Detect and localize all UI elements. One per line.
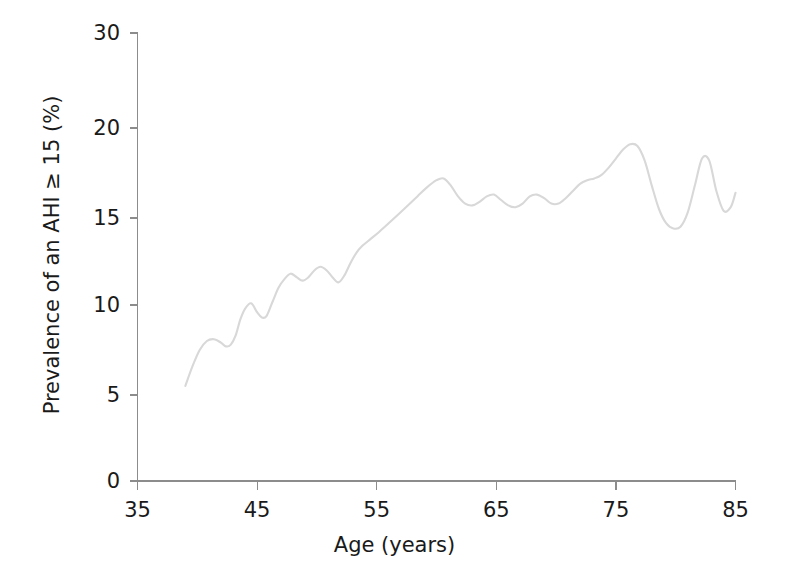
x-tick-label-85: 85 xyxy=(722,498,749,522)
chart-figure: 30 20 15 10 5 0 35 45 55 65 75 85 Age (y… xyxy=(0,0,789,580)
y-axis-ticks xyxy=(130,33,138,481)
x-tick-label-55: 55 xyxy=(363,498,390,522)
y-tick-label-10: 10 xyxy=(68,293,120,317)
x-axis-label: Age (years) xyxy=(0,533,789,557)
prevalence-curve xyxy=(185,144,735,386)
x-axis-ticks xyxy=(138,481,736,490)
x-tick-label-45: 45 xyxy=(244,498,271,522)
y-axis-label: Prevalence of an AHI ≥ 15 (%) xyxy=(40,0,64,515)
y-tick-label-15: 15 xyxy=(68,206,120,230)
x-tick-label-65: 65 xyxy=(483,498,510,522)
y-tick-label-30: 30 xyxy=(68,21,120,45)
y-tick-label-5: 5 xyxy=(68,383,120,407)
y-tick-label-20: 20 xyxy=(68,116,120,140)
x-tick-label-75: 75 xyxy=(603,498,630,522)
chart-plot-area xyxy=(0,0,789,580)
y-tick-label-0: 0 xyxy=(68,469,120,493)
x-tick-label-35: 35 xyxy=(124,498,151,522)
